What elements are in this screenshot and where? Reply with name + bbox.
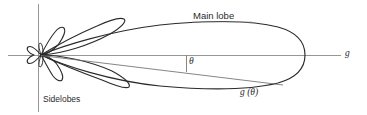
g-theta-label: g (θ): [240, 88, 258, 98]
sidelobes-label: Sidelobes: [43, 95, 80, 104]
antenna-radiation-pattern-figure: Main lobe Sidelobes θ g (θ) g: [0, 0, 367, 115]
g-axis-label: g: [345, 49, 350, 59]
lower-inner-sidelobe: [41, 55, 63, 81]
main-lobe-label: Main lobe: [193, 11, 234, 21]
theta-label: θ: [189, 57, 194, 67]
